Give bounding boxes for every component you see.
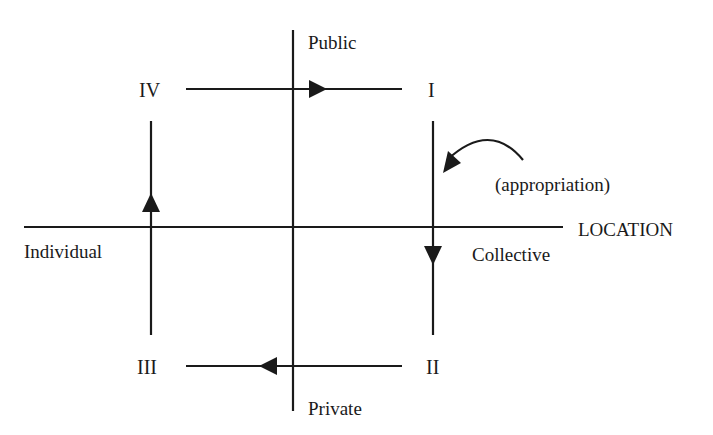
collective-label: Collective bbox=[472, 245, 550, 264]
quadrant-iii-label: III bbox=[137, 357, 157, 377]
arrow-right-icon bbox=[309, 80, 327, 98]
quadrant-diagram bbox=[0, 0, 713, 435]
location-axis-label: LOCATION bbox=[578, 220, 673, 239]
quadrant-i-label: I bbox=[428, 80, 435, 100]
quadrant-iv-label: IV bbox=[139, 80, 160, 100]
appropriation-curved-arrow bbox=[447, 140, 523, 160]
public-label: Public bbox=[308, 33, 357, 52]
quadrant-ii-label: II bbox=[426, 357, 439, 377]
arrow-down-icon bbox=[424, 246, 442, 265]
arrow-left-icon bbox=[259, 357, 277, 375]
private-label: Private bbox=[308, 399, 362, 418]
appropriation-label: (appropriation) bbox=[495, 175, 610, 194]
arrow-up-icon bbox=[142, 193, 160, 212]
individual-label: Individual bbox=[24, 242, 102, 261]
